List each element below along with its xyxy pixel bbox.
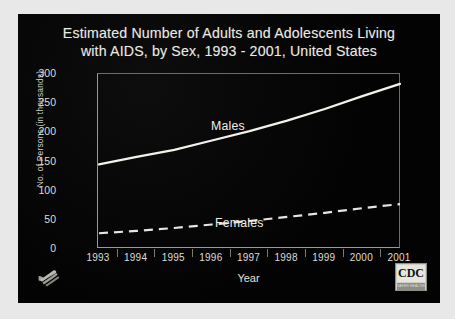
cdc-logo: CDC SAFER·HEALTHIER·PEOPLE [395, 263, 427, 291]
chart-title-line-2: with AIDS, by Sex, 1993 - 2001, United S… [18, 43, 440, 61]
cdc-logo-text: CDC [397, 265, 425, 282]
x-axis-tick-1998: 1998 [266, 252, 306, 263]
y-axis-tick-50: 50 [18, 214, 56, 225]
y-axis-tick-250: 250 [18, 97, 56, 108]
series-label-males: Males [211, 119, 245, 133]
x-axis-tick-1994: 1994 [116, 252, 156, 263]
y-axis-tick-300: 300 [18, 68, 56, 79]
x-axis-tick-1997: 1997 [229, 252, 269, 263]
x-axis-tick-1996: 1996 [191, 252, 231, 263]
x-axis-tick-2000: 2000 [341, 252, 381, 263]
x-axis-label: Year [97, 272, 400, 284]
x-axis-tick-1993: 1993 [78, 252, 118, 263]
chart-title: Estimated Number of Adults and Adolescen… [18, 25, 440, 60]
cdc-logo-tagline: SAFER·HEALTHIER·PEOPLE [397, 283, 425, 290]
slide-canvas: Estimated Number of Adults and Adolescen… [18, 14, 440, 303]
line-series-males [99, 84, 400, 165]
x-axis-tick-1999: 1999 [304, 252, 344, 263]
y-axis-tick-200: 200 [18, 126, 56, 137]
series-label-females: Females [215, 216, 264, 230]
x-axis-tick-1995: 1995 [153, 252, 193, 263]
y-axis-tick-0: 0 [18, 243, 56, 254]
hhs-eagle-icon [36, 263, 62, 289]
y-axis-tick-100: 100 [18, 185, 56, 196]
y-axis-tick-150: 150 [18, 156, 56, 167]
x-axis-tick-2001: 2001 [379, 252, 419, 263]
chart-title-line-1: Estimated Number of Adults and Adolescen… [63, 25, 395, 41]
